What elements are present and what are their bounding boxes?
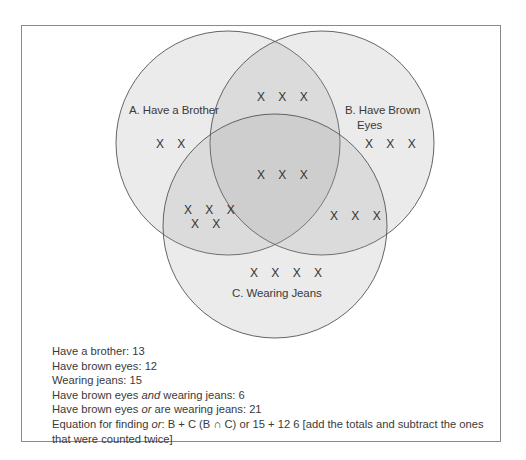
- marks-c-only: X X X X: [250, 267, 327, 280]
- note-brother: Have a brother: 13: [52, 344, 492, 359]
- label-set-b-line1: B. Have Brown: [345, 104, 420, 116]
- note-jeans: Wearing jeans: 15: [52, 373, 492, 388]
- marks-b-and-c: X X X: [330, 210, 386, 223]
- marks-a-b-c: X X X: [257, 169, 313, 182]
- marks-a-and-c-line1: X X X: [184, 204, 240, 217]
- note-eq-word: or: [152, 418, 162, 430]
- marks-a-only: X X: [156, 138, 190, 151]
- marks-a-and-c-line2: X X: [191, 218, 225, 231]
- label-set-a: A. Have a Brother: [129, 104, 219, 116]
- note-and-prefix: Have brown eyes: [52, 389, 142, 401]
- note-or-prefix: Have brown eyes: [52, 403, 142, 415]
- note-and-word: and: [142, 389, 161, 401]
- label-set-b-line2: Eyes: [357, 119, 382, 131]
- note-or-suffix: are wearing jeans: 21: [152, 403, 262, 415]
- label-set-c: C. Wearing Jeans: [232, 287, 322, 299]
- marks-a-and-b: X X X: [257, 91, 313, 104]
- note-eq-prefix: Equation for finding: [52, 418, 152, 430]
- note-or: Have brown eyes or are wearing jeans: 21: [52, 402, 492, 417]
- note-equation-line2: that were counted twice]: [52, 432, 492, 447]
- note-eq-suffix: : B + C (B ∩ C) or 15 + 12 6 [add the to…: [161, 418, 483, 430]
- note-or-word: or: [142, 403, 152, 415]
- note-and-suffix: wearing jeans: 6: [160, 389, 245, 401]
- marks-b-only: X X X: [365, 138, 421, 151]
- note-equation: Equation for finding or: B + C (B ∩ C) o…: [52, 417, 492, 432]
- note-brown-eyes: Have brown eyes: 12: [52, 359, 492, 374]
- notes-block: Have a brother: 13 Have brown eyes: 12 W…: [52, 344, 492, 446]
- note-and: Have brown eyes and wearing jeans: 6: [52, 388, 492, 403]
